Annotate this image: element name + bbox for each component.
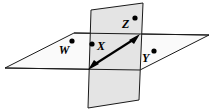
point-w-dot	[69, 38, 74, 43]
point-x-label: X	[96, 39, 106, 53]
point-y-dot	[151, 48, 156, 53]
point-x-dot	[89, 41, 94, 46]
point-z-dot	[132, 15, 137, 20]
point-w-label: W	[59, 43, 71, 57]
geometry-figure: W X Z Y	[0, 0, 214, 112]
figure-canvas: W X Z Y	[0, 0, 214, 112]
point-z-label: Z	[121, 17, 130, 31]
